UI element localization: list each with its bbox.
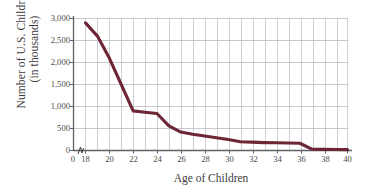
x-tick-label-18: 18	[73, 154, 99, 164]
y-tick-label-2500: 2,500	[36, 35, 70, 45]
y-axis-title: Number of U.S. Children (in thousands)	[15, 0, 41, 129]
x-tick-label-22: 22	[121, 154, 147, 164]
y-tick-label-500: 500	[36, 123, 70, 133]
x-tick-label-30: 30	[217, 154, 243, 164]
x-tick-label-40: 40	[335, 154, 361, 164]
y-tick-label-2000: 2,000	[36, 57, 70, 67]
x-tick-label-24: 24	[145, 154, 171, 164]
chart-container: 3,000 2,500 2,000 1,500 1,000 500 0 0 18…	[0, 0, 365, 193]
y-axis-title-line1: Number of U.S. Children	[15, 0, 28, 129]
x-tick-label-20: 20	[97, 154, 123, 164]
x-tick-label-26: 26	[169, 154, 195, 164]
y-tick-label-3000: 3,000	[36, 13, 70, 23]
x-tick-label-28: 28	[193, 154, 219, 164]
x-tick-label-32: 32	[241, 154, 267, 164]
y-axis-title-line2: (in thousands)	[28, 0, 41, 129]
x-axis-title: Age of Children	[73, 172, 349, 184]
y-tick-label-1000: 1,000	[36, 101, 70, 111]
y-tick-label-1500: 1,500	[36, 79, 70, 89]
x-tick-label-34: 34	[265, 154, 291, 164]
x-tick-label-36: 36	[289, 154, 315, 164]
plot-background	[73, 18, 348, 150]
